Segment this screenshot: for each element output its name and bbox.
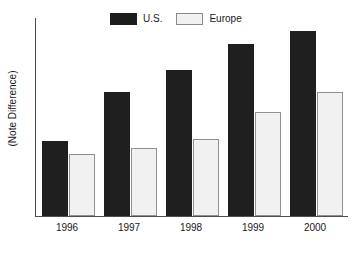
- bar-europe: [317, 92, 343, 216]
- bar-group: [36, 18, 98, 216]
- x-axis-line: [35, 216, 348, 217]
- bar-group: [284, 18, 346, 216]
- bar-us: [104, 92, 130, 216]
- bar-us: [228, 44, 254, 216]
- x-tick-label: 1997: [98, 222, 160, 234]
- bar-groups: [35, 18, 348, 216]
- bar-europe: [255, 112, 281, 216]
- bar-us: [42, 141, 68, 216]
- y-axis-label: (Note Difference): [2, 0, 24, 216]
- plot-area: [35, 18, 348, 216]
- bar-europe: [131, 148, 157, 216]
- bar-group: [160, 18, 222, 216]
- bar-chart: U.S. Europe (Note Difference) 1996199719…: [0, 0, 364, 259]
- bar-us: [290, 31, 316, 216]
- bar-europe: [193, 139, 219, 216]
- x-tick-label: 1999: [222, 222, 284, 234]
- x-axis-tick-labels: 19961997199819992000: [35, 222, 348, 238]
- bar-group: [222, 18, 284, 216]
- bar-group: [98, 18, 160, 216]
- y-axis-label-text: (Note Difference): [8, 70, 19, 146]
- x-tick-label: 2000: [284, 222, 346, 234]
- bar-us: [166, 70, 192, 216]
- x-tick-label: 1996: [36, 222, 98, 234]
- x-tick-label: 1998: [160, 222, 222, 234]
- bar-europe: [69, 154, 95, 216]
